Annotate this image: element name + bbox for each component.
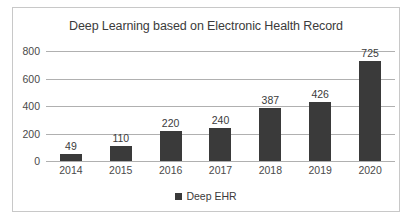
y-axis-tick-label: 400 (22, 100, 40, 112)
x-axis-tick-label-2017: 2017 (209, 164, 232, 176)
bar-2015[interactable] (110, 146, 132, 161)
y-axis-tick-label: 600 (22, 73, 40, 85)
y-axis-tick-label: 0 (34, 155, 40, 167)
bar-2014[interactable] (60, 154, 82, 161)
bar-value-label-2018: 387 (262, 94, 280, 106)
bar-value-label-2019: 426 (311, 88, 329, 100)
plot-area: 0200400600800 49110220240387426725 (46, 51, 395, 161)
bar-group: 220 (146, 51, 196, 161)
x-axis-labels: 2014201520162017201820192020 (46, 164, 395, 180)
x-axis-tick-label-2019: 2019 (309, 164, 332, 176)
bar-group: 426 (295, 51, 345, 161)
legend-swatch-deep-ehr (175, 193, 182, 200)
x-axis-tick-label-2020: 2020 (358, 164, 381, 176)
y-axis-tick-label: 800 (22, 45, 40, 57)
chart-title: Deep Learning based on Electronic Health… (13, 19, 399, 33)
bars-layer: 49110220240387426725 (46, 51, 395, 161)
bar-value-label-2016: 220 (162, 117, 180, 129)
bar-2020[interactable] (359, 61, 381, 161)
legend-label-deep-ehr: Deep EHR (186, 190, 236, 202)
bar-2017[interactable] (209, 128, 231, 161)
x-axis-tick-label-2015: 2015 (109, 164, 132, 176)
bar-group: 49 (46, 51, 96, 161)
bar-group: 240 (196, 51, 246, 161)
bar-value-label-2020: 725 (361, 47, 379, 59)
y-axis-tick-label: 200 (22, 128, 40, 140)
gridline-0 (46, 161, 395, 162)
bar-group: 387 (245, 51, 295, 161)
chart-legend: Deep EHR (13, 190, 399, 202)
chart-frame: Deep Learning based on Electronic Health… (12, 7, 400, 212)
bar-2016[interactable] (160, 131, 182, 161)
bar-2019[interactable] (309, 102, 331, 161)
x-axis-tick-label-2016: 2016 (159, 164, 182, 176)
bar-value-label-2015: 110 (112, 132, 129, 144)
x-axis-tick-label-2014: 2014 (59, 164, 82, 176)
bar-group: 725 (345, 51, 395, 161)
bar-2018[interactable] (259, 108, 281, 161)
bar-group: 110 (96, 51, 146, 161)
x-axis-tick-label-2018: 2018 (259, 164, 282, 176)
bar-value-label-2014: 49 (65, 140, 77, 152)
bar-value-label-2017: 240 (212, 114, 230, 126)
